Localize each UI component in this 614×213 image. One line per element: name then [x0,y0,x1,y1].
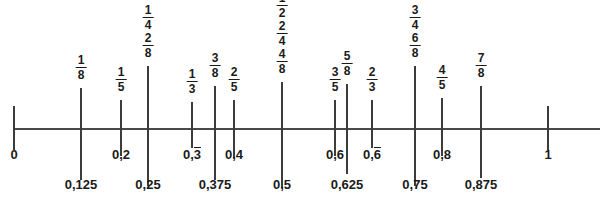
decimal-label-t-3_8: 0,375 [199,178,232,191]
decimal-label-t-1_3: 0,3 [183,148,201,161]
fraction-numerator: 1 [277,0,288,4]
fraction-t-1_5-1-over-5: 15 [116,66,127,93]
tick-t-3_8[interactable] [214,86,216,180]
tick-t-0[interactable] [13,106,15,150]
endpoint-label-one: 1 [544,148,551,161]
fraction-numerator: 2 [367,66,378,78]
fraction-t-2_3-2-over-3: 23 [367,66,378,93]
fraction-t-3_5-3-over-5: 35 [330,66,341,93]
fraction-t-2_5-2-over-5: 25 [229,66,240,93]
tick-t-1[interactable] [547,106,549,150]
fraction-numerator: 1 [143,4,154,16]
fraction-denominator: 4 [143,17,154,31]
endpoint-label-zero: 0 [10,148,17,161]
fraction-denominator: 8 [476,65,487,79]
decimal-label-t-2_3: 0,6 [363,148,381,161]
tick-t-3_4[interactable] [414,66,416,186]
repeating-overline: 6 [374,147,381,161]
fraction-denominator: 4 [410,17,421,31]
tick-t-7_8[interactable] [480,86,482,178]
fraction-t-1_2-2-over-4: 24 [277,20,288,47]
fraction-t-3_4-6-over-8: 68 [410,32,421,59]
tick-t-1_3[interactable] [191,102,193,148]
fraction-denominator: 8 [277,61,288,75]
decimal-label-t-1_2: 0,5 [273,178,291,191]
fraction-t-1_3-1-over-3: 13 [187,68,198,95]
decimal-label-t-1_8: 0,125 [65,178,98,191]
fraction-numerator: 1 [187,68,198,80]
fraction-denominator: 5 [330,79,341,93]
decimal-label-t-3_5: 0,6 [326,148,344,161]
fraction-numerator: 2 [229,66,240,78]
fraction-denominator: 8 [210,65,221,79]
fraction-numerator: 4 [437,64,448,76]
fraction-denominator: 3 [187,81,198,95]
fraction-numerator: 4 [277,48,288,60]
fraction-denominator: 4 [277,33,288,47]
decimal-label-t-2_5: 0,4 [225,148,243,161]
fraction-numerator: 3 [330,66,341,78]
decimal-label-t-1_5: 0,2 [112,148,130,161]
decimal-label-t-4_5: 0,8 [433,148,451,161]
fraction-numerator: 3 [210,52,221,64]
tick-t-1_2[interactable] [281,82,283,188]
fraction-numerator: 5 [342,50,353,62]
fraction-t-7_8-7-over-8: 78 [476,52,487,79]
tick-t-1_8[interactable] [80,88,82,180]
decimal-label-t-5_8: 0,625 [331,178,364,191]
fraction-t-1_2-1-over-2: 12 [277,0,288,19]
fraction-numerator: 1 [116,66,127,78]
tick-t-1_4[interactable] [147,66,149,186]
fraction-t-3_4-3-over-4: 34 [410,4,421,31]
fraction-denominator: 5 [437,77,448,91]
fraction-t-4_5-4-over-5: 45 [437,64,448,91]
fraction-numerator: 2 [143,32,154,44]
decimal-label-t-3_4: 0,75 [402,178,427,191]
tick-t-2_3[interactable] [371,100,373,148]
fraction-numerator: 7 [476,52,487,64]
number-line-diagram: 180,125150,214280,25130,3380,375250,4122… [0,0,614,213]
fraction-t-1_2-4-over-8: 48 [277,48,288,75]
tick-t-5_8[interactable] [346,84,348,174]
fraction-denominator: 8 [410,45,421,59]
fraction-t-1_8-1-over-8: 18 [76,54,87,81]
fraction-numerator: 2 [277,20,288,32]
fraction-denominator: 8 [342,63,353,77]
fraction-denominator: 3 [367,79,378,93]
fraction-denominator: 5 [116,79,127,93]
fraction-denominator: 8 [143,45,154,59]
fraction-denominator: 2 [277,5,288,19]
decimal-label-t-7_8: 0,875 [465,178,498,191]
fraction-numerator: 3 [410,4,421,16]
fraction-t-5_8-5-over-8: 58 [342,50,353,77]
fraction-t-1_4-2-over-8: 28 [143,32,154,59]
axis-line [14,128,600,130]
fraction-numerator: 6 [410,32,421,44]
fraction-denominator: 8 [76,67,87,81]
fraction-numerator: 1 [76,54,87,66]
fraction-t-3_8-3-over-8: 38 [210,52,221,79]
repeating-overline: 3 [194,147,201,161]
fraction-denominator: 5 [229,79,240,93]
fraction-t-1_4-1-over-4: 14 [143,4,154,31]
decimal-label-t-1_4: 0,25 [135,178,160,191]
